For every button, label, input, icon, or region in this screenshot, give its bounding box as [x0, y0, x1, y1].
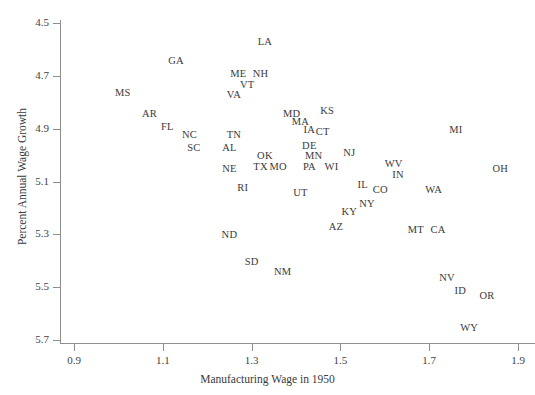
data-point-label: UT	[293, 187, 307, 198]
data-point-label: IN	[392, 168, 403, 179]
data-point-label: ID	[455, 284, 466, 295]
data-point-label: AR	[142, 107, 157, 118]
data-point-label: MN	[305, 150, 322, 161]
data-point-label: WA	[425, 184, 442, 195]
data-point-label: WI	[325, 160, 339, 171]
y-tick-mark	[53, 182, 60, 183]
y-tick-label: 5.7	[0, 334, 49, 345]
x-tick-label: 1.7	[409, 354, 449, 366]
data-point-label: TN	[227, 128, 241, 139]
x-tick-mark	[252, 344, 253, 351]
x-tick-label: 1.5	[320, 354, 360, 366]
data-point-label: ND	[222, 229, 238, 240]
data-point-label: MT	[408, 224, 424, 235]
data-point-label: OK	[257, 150, 273, 161]
clipped-caption-strip	[0, 0, 535, 5]
data-point-label: RI	[237, 181, 248, 192]
data-point-label: CT	[316, 126, 330, 137]
x-tick-mark	[340, 344, 341, 351]
data-point-label: PA	[303, 160, 316, 171]
data-point-label: NE	[222, 163, 236, 174]
data-point-label: OR	[479, 290, 494, 301]
data-point-label: KY	[341, 205, 357, 216]
data-point-label: GA	[168, 54, 184, 65]
data-point-label: ME	[230, 68, 246, 79]
data-point-label: NC	[182, 128, 197, 139]
x-axis-line	[60, 343, 535, 344]
data-point-label: LA	[258, 36, 272, 47]
plot-area: MSGAARFLNCSCTNALLAMENHVTVAMDKSMAIACTDEMN…	[60, 23, 535, 340]
data-point-label: KS	[320, 105, 334, 116]
x-tick-label: 1.1	[143, 354, 183, 366]
data-point-label: CO	[373, 184, 388, 195]
scatter-plot-figure: 5.75.55.35.14.94.74.5 0.91.11.31.51.71.9…	[0, 0, 535, 395]
data-point-label: WV	[385, 158, 403, 169]
data-point-label: MO	[270, 160, 287, 171]
x-tick-mark	[429, 344, 430, 351]
data-point-label: NH	[253, 68, 269, 79]
data-point-label: AZ	[329, 221, 343, 232]
data-point-label: DE	[302, 139, 316, 150]
data-point-label: MI	[449, 123, 462, 134]
data-point-label: IA	[304, 123, 315, 134]
data-point-label: SC	[187, 142, 200, 153]
x-axis-label: Manufacturing Wage in 1950	[0, 373, 535, 386]
y-tick-mark	[53, 340, 60, 341]
data-point-label: NY	[359, 197, 375, 208]
data-point-label: CA	[431, 224, 446, 235]
x-tick-label: 1.3	[232, 354, 272, 366]
data-point-label: AL	[222, 142, 236, 153]
data-point-label: IL	[357, 179, 367, 190]
y-tick-mark	[53, 287, 60, 288]
data-point-label: NV	[439, 271, 455, 282]
x-tick-mark	[74, 344, 75, 351]
x-tick-label: 1.9	[498, 354, 535, 366]
data-point-label: MS	[115, 86, 131, 97]
x-tick-mark	[163, 344, 164, 351]
data-point-label: FL	[161, 121, 174, 132]
data-point-label: WY	[460, 321, 478, 332]
y-tick-mark	[53, 76, 60, 77]
y-axis-label: Percent Annual Wage Growth	[16, 62, 29, 292]
y-tick-label: 4.5	[0, 17, 49, 28]
x-tick-mark	[518, 344, 519, 351]
y-tick-mark	[53, 23, 60, 24]
data-point-label: SD	[245, 255, 259, 266]
data-point-label: VA	[227, 89, 241, 100]
y-tick-mark	[53, 129, 60, 130]
data-point-label: NJ	[343, 147, 355, 158]
data-point-label: NM	[274, 266, 291, 277]
x-tick-label: 0.9	[54, 354, 94, 366]
data-point-label: TX	[253, 160, 267, 171]
y-tick-mark	[53, 234, 60, 235]
data-point-label: VT	[240, 78, 254, 89]
data-point-label: OH	[492, 163, 508, 174]
